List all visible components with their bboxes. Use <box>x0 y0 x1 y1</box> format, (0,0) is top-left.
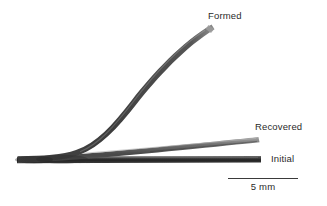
scale-bar-label: 5 mm <box>228 179 298 193</box>
specimen-formed <box>18 25 215 163</box>
specimen-figure: Formed Recovered Initial 5 mm <box>0 0 327 206</box>
specimen-photograph <box>0 0 327 206</box>
label-formed: Formed <box>208 10 242 21</box>
scale-bar: 5 mm <box>228 178 298 193</box>
label-initial: Initial <box>271 153 294 164</box>
label-recovered: Recovered <box>255 121 302 132</box>
